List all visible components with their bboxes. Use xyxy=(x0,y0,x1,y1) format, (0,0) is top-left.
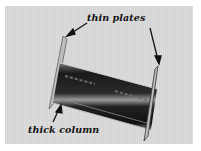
label-thick-column: thick column xyxy=(28,124,99,135)
label-thin-plates: thin plates xyxy=(87,12,145,23)
arrowhead-icon xyxy=(67,29,75,36)
thick-column-body xyxy=(53,63,157,130)
arrowhead-icon xyxy=(155,56,161,64)
arrow-thin-plates-right xyxy=(150,28,158,60)
arrowhead-icon xyxy=(56,105,62,113)
